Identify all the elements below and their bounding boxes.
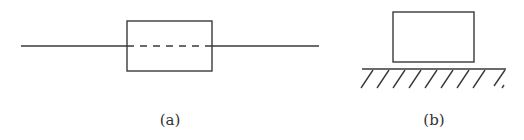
block-b — [393, 12, 474, 62]
ground-hatching — [361, 70, 505, 88]
caption-b: (b) — [423, 111, 444, 129]
figure-a — [21, 21, 319, 71]
diagram-canvas — [0, 0, 524, 140]
caption-a: (a) — [160, 111, 181, 129]
figure-b — [361, 12, 506, 88]
